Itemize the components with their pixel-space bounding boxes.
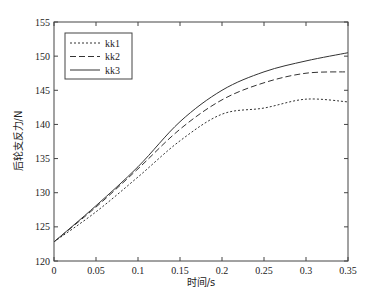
y-tick-label: 130 — [35, 187, 50, 198]
x-tick-label: 0.2 — [216, 265, 229, 276]
x-tick-label: 0.25 — [255, 265, 273, 276]
y-tick-label: 125 — [35, 221, 50, 232]
y-tick-label: 120 — [35, 256, 50, 267]
y-tick-label: 150 — [35, 51, 50, 62]
x-axis-label: 时间/s — [187, 276, 216, 288]
x-tick-label: 0.1 — [132, 265, 145, 276]
legend-label-kk2: kk2 — [105, 51, 120, 62]
legend-label-kk3: kk3 — [105, 65, 120, 76]
chart-background — [0, 0, 371, 304]
x-tick-label: 0 — [52, 265, 57, 276]
legend-label-kk1: kk1 — [105, 38, 120, 49]
legend: kk1kk2kk3 — [65, 33, 132, 79]
y-tick-label: 140 — [35, 119, 50, 130]
line-chart: 00.050.10.150.20.250.30.35 1201251301351… — [0, 0, 371, 304]
y-tick-label: 135 — [35, 153, 50, 164]
y-axis-label: 后轮支反力/N — [12, 111, 24, 172]
y-tick-label: 145 — [35, 85, 50, 96]
x-tick-label: 0.35 — [339, 265, 357, 276]
x-tick-label: 0.3 — [300, 265, 313, 276]
x-tick-label: 0.05 — [87, 265, 105, 276]
y-tick-label: 155 — [35, 17, 50, 28]
x-tick-label: 0.15 — [171, 265, 189, 276]
